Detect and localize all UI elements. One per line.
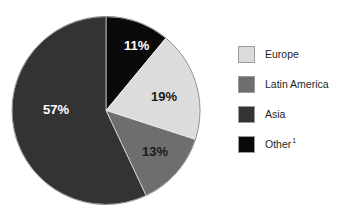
pie-plot-area: 11%19%13%57% bbox=[11, 14, 201, 207]
legend-swatch-icon bbox=[238, 136, 255, 153]
pie-chart-figure: 11%19%13%57% EuropeLatin AmericaAsiaOthe… bbox=[0, 0, 342, 217]
legend-item-label: Europe bbox=[265, 49, 299, 60]
legend-swatch-icon bbox=[238, 46, 255, 63]
pie-label-asia: 57% bbox=[43, 103, 69, 116]
pie-label-other: 11% bbox=[124, 39, 149, 52]
legend-item-europe[interactable]: Europe bbox=[238, 45, 299, 63]
legend-item-label: Asia bbox=[265, 109, 285, 120]
pie-label-latin-america: 13% bbox=[142, 145, 168, 158]
legend-item-other[interactable]: Other1 bbox=[238, 135, 296, 153]
chart-legend: EuropeLatin AmericaAsiaOther1 bbox=[238, 45, 342, 163]
pie-label-europe: 19% bbox=[151, 90, 177, 103]
legend-item-label: Other1 bbox=[265, 139, 296, 150]
legend-footnote-marker: 1 bbox=[292, 137, 296, 144]
pie-slice-group bbox=[12, 16, 200, 204]
legend-item-asia[interactable]: Asia bbox=[238, 105, 285, 123]
legend-swatch-icon bbox=[238, 106, 255, 123]
legend-item-label: Latin America bbox=[265, 79, 329, 90]
legend-swatch-icon bbox=[238, 76, 255, 93]
pie-svg bbox=[11, 14, 201, 207]
legend-item-latin-america[interactable]: Latin America bbox=[238, 75, 329, 93]
